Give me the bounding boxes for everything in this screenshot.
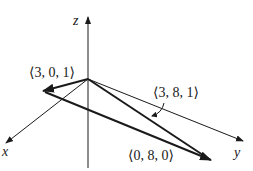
vector-3-0-1-label: ⟨3, 0, 1⟩ [29, 65, 75, 80]
x-axis-label: x [1, 144, 9, 159]
z-axis-label: z [72, 13, 79, 28]
vector-0-8-0-label: ⟨0, 8, 0⟩ [128, 148, 174, 163]
y-axis-label: y [232, 145, 241, 160]
vector-3-8-1-label: ⟨3, 8, 1⟩ [153, 85, 199, 100]
vector-diagram: z x y ⟨3, 0, 1⟩ ⟨3, 8, 1⟩ ⟨0, 8, 0⟩ [0, 0, 253, 171]
x-axis [6, 79, 88, 143]
vector-3-0-1-arrow [43, 79, 88, 91]
